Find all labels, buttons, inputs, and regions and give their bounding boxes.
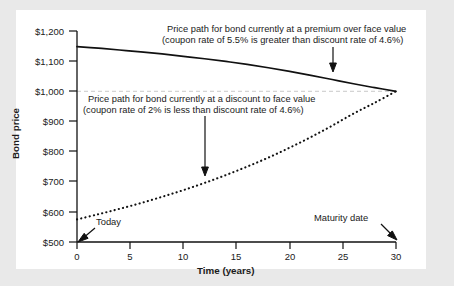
y-tick-label-1000: $1,000 <box>18 86 64 97</box>
premium-annotation-line1: Price path for bond currently at a premi… <box>167 24 406 35</box>
discount-annotation-line1: Price path for bond currently at a disco… <box>88 94 315 105</box>
y-tick-label-1200: $1,200 <box>18 26 64 37</box>
y-tick-label-800: $800 <box>18 146 64 157</box>
discount-arrow-head <box>202 167 209 176</box>
y-axis-ticks <box>69 31 77 242</box>
x-axis-ticks <box>77 242 396 249</box>
maturity-callout-label: Maturity date <box>314 212 368 223</box>
y-tick-label-500: $500 <box>18 237 64 248</box>
premium-bond-price-path <box>77 47 396 92</box>
x-axis-title: Time (years) <box>197 265 255 277</box>
discount-annotation-line2: (coupon rate of 2% is less than discount… <box>83 105 304 116</box>
x-tick-label-0: 0 <box>64 251 90 262</box>
x-tick-label-30: 30 <box>383 251 409 262</box>
y-axis-title: Bond price <box>10 99 21 169</box>
y-tick-label-1100: $1,100 <box>18 56 64 67</box>
x-tick-label-5: 5 <box>117 251 143 262</box>
x-tick-label-10: 10 <box>170 251 196 262</box>
y-tick-label-700: $700 <box>18 176 64 187</box>
x-tick-label-25: 25 <box>330 251 356 262</box>
premium-annotation-line2: (coupon rate of 5.5% is greater than dis… <box>162 35 403 46</box>
x-tick-label-20: 20 <box>277 251 303 262</box>
y-tick-label-900: $900 <box>18 116 64 127</box>
y-tick-label-600: $600 <box>18 207 64 218</box>
x-tick-label-15: 15 <box>223 251 249 262</box>
figure-background: $1,200 $1,100 $1,000 $900 $800 $700 $600… <box>0 0 454 286</box>
premium-arrow-head <box>330 63 337 72</box>
today-callout-label: Today <box>96 216 121 227</box>
